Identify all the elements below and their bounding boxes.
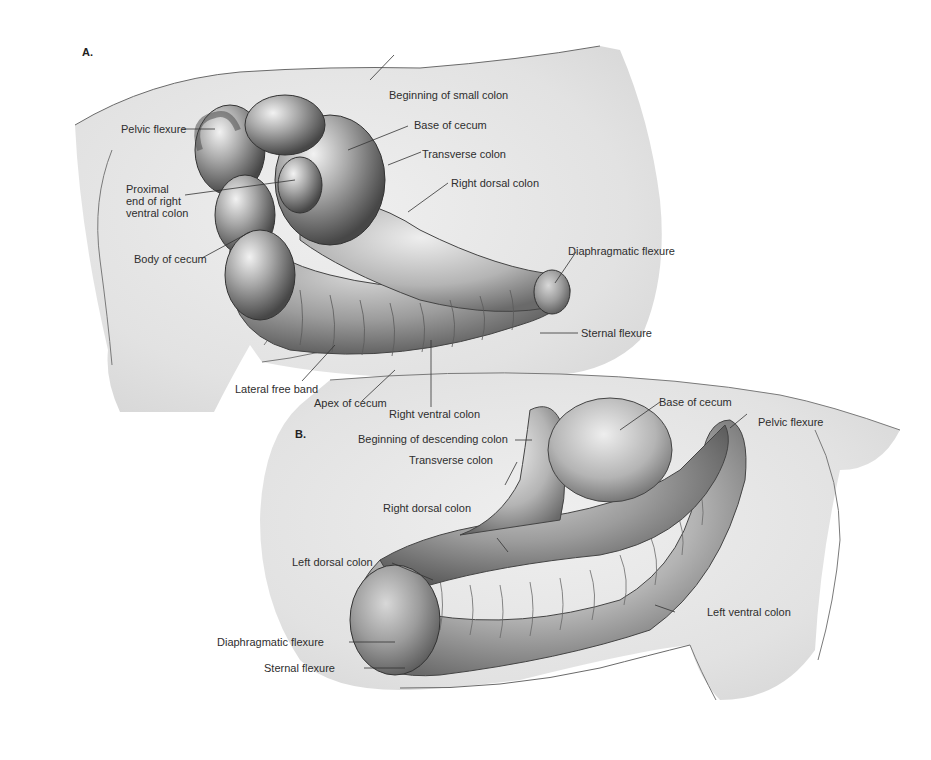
panel-a-label: A. bbox=[82, 46, 93, 58]
label-b-base-of-cecum: Base of cecum bbox=[659, 396, 732, 408]
label-a-transverse-colon: Transverse colon bbox=[422, 148, 506, 160]
label-a-right-ventral-colon: Right ventral colon bbox=[389, 408, 480, 420]
label-b-beginning-descending-colon: Beginning of descending colon bbox=[358, 433, 508, 445]
label-a-body-of-cecum: Body of cecum bbox=[134, 253, 207, 265]
label-a-lateral-free-band: Lateral free band bbox=[235, 383, 318, 395]
label-b-pelvic-flexure: Pelvic flexure bbox=[758, 416, 823, 428]
label-a-apex-of-cecum: Apex of cecum bbox=[314, 397, 387, 409]
label-a-sternal-flexure: Sternal flexure bbox=[581, 327, 652, 339]
label-a-right-dorsal-colon: Right dorsal colon bbox=[451, 177, 539, 189]
label-a-pelvic-flexure: Pelvic flexure bbox=[121, 123, 186, 135]
label-b-left-ventral-colon: Left ventral colon bbox=[707, 606, 791, 618]
label-b-diaphragmatic-flexure: Diaphragmatic flexure bbox=[217, 636, 324, 648]
label-b-left-dorsal-colon: Left dorsal colon bbox=[292, 556, 373, 568]
label-b-right-dorsal-colon: Right dorsal colon bbox=[383, 502, 471, 514]
label-a-beginning-small-colon: Beginning of small colon bbox=[389, 89, 508, 101]
label-a-proximal-right-ventral-colon: Proximal end of right ventral colon bbox=[126, 183, 188, 219]
label-b-sternal-flexure: Sternal flexure bbox=[264, 662, 335, 674]
anatomy-illustration bbox=[0, 0, 931, 760]
label-b-transverse-colon: Transverse colon bbox=[409, 454, 493, 466]
label-a-diaphragmatic-flexure: Diaphragmatic flexure bbox=[568, 245, 675, 257]
panel-b-label: B. bbox=[295, 428, 306, 440]
label-a-base-of-cecum: Base of cecum bbox=[414, 119, 487, 131]
